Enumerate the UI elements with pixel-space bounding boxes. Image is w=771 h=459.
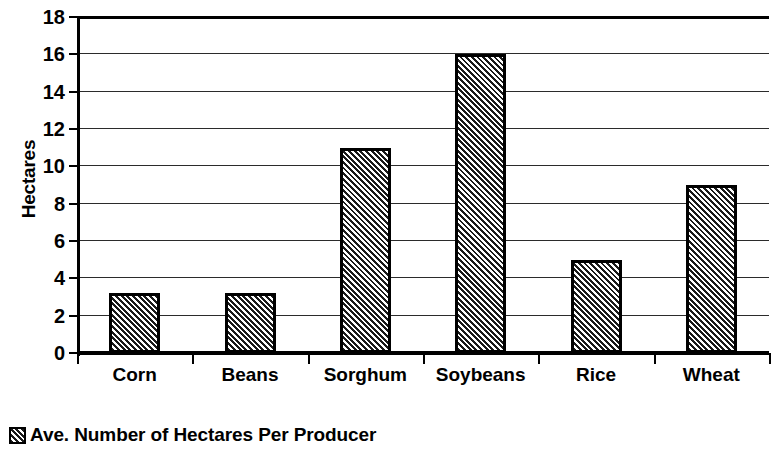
y-axis-tick-mark: [69, 203, 80, 205]
y-axis-tick-label: 18: [21, 7, 65, 27]
y-axis-tick-label: 12: [21, 119, 65, 139]
y-axis-tick-label: 14: [21, 82, 65, 102]
bar: [455, 54, 506, 353]
y-axis-tick-label: 10: [21, 156, 65, 176]
y-axis-tick-mark: [69, 128, 80, 130]
x-axis-tick-label: Beans: [192, 364, 307, 386]
bar: [225, 293, 276, 353]
legend-label: Ave. Number of Hectares Per Producer: [30, 424, 376, 446]
bar: [340, 148, 391, 353]
x-axis-tick-label: Rice: [538, 364, 653, 386]
x-axis-tick-label: Soybeans: [423, 364, 538, 386]
y-axis-tick-mark: [69, 16, 80, 18]
gridline: [77, 315, 769, 316]
x-axis-tick-mark: [423, 353, 425, 364]
x-axis-tick-mark: [538, 353, 540, 364]
plot-area: [77, 17, 769, 353]
y-axis-line: [77, 17, 80, 356]
x-axis-tick-mark: [654, 353, 656, 364]
hatched-square-swatch-icon: [9, 427, 26, 444]
x-axis-tick-mark: [308, 353, 310, 364]
gridline: [77, 91, 769, 92]
bar: [571, 260, 622, 353]
gridline: [77, 240, 769, 241]
x-axis-tick-label: Sorghum: [308, 364, 423, 386]
bar: [686, 185, 737, 353]
x-axis-tick-label: Corn: [77, 364, 192, 386]
y-axis-tick-label: 8: [21, 194, 65, 214]
y-axis-tick-mark: [69, 240, 80, 242]
gridline: [77, 165, 769, 166]
gridline: [77, 16, 769, 19]
y-axis-tick-label: 6: [21, 231, 65, 251]
gridline: [77, 203, 769, 204]
y-axis-tick-mark: [69, 91, 80, 93]
x-axis-tick-mark: [77, 353, 79, 364]
chart-legend: Ave. Number of Hectares Per Producer: [9, 424, 376, 446]
y-axis-tick-label: 2: [21, 306, 65, 326]
y-axis-tick-label: 4: [21, 268, 65, 288]
gridline: [77, 277, 769, 278]
x-axis-tick-label: Wheat: [654, 364, 769, 386]
x-axis-tick-mark: [192, 353, 194, 364]
gridline: [77, 53, 769, 54]
gridline: [77, 128, 769, 129]
y-axis-tick-mark: [69, 165, 80, 167]
y-axis-title: Hectares: [18, 124, 40, 234]
y-axis-tick-label: 0: [21, 343, 65, 363]
y-axis-tick-mark: [69, 315, 80, 317]
y-axis-tick-mark: [69, 277, 80, 279]
y-axis-tick-label: 16: [21, 44, 65, 64]
bar: [109, 293, 160, 353]
y-axis-tick-mark: [69, 53, 80, 55]
